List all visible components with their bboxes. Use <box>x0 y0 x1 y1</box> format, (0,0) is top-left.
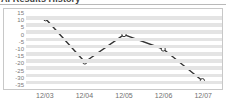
plot-area <box>26 9 222 89</box>
grid-band <box>26 30 222 34</box>
title-divider <box>0 4 226 5</box>
grid-band <box>26 52 222 56</box>
chart-widget: AI Results History 151050-5-10-15-20-25-… <box>0 0 226 103</box>
y-axis-tick-label: 10 <box>17 17 24 23</box>
x-axis: 12/0312/0412/0512/0612/07 <box>25 91 223 103</box>
x-axis-tick-label: 12/07 <box>194 91 212 101</box>
x-axis-tick-label: 12/03 <box>36 91 54 101</box>
x-axis-tick-label: 12/05 <box>115 91 133 101</box>
grid-band <box>26 66 222 70</box>
y-axis-tick-label: -35 <box>15 82 24 88</box>
grid-band <box>26 81 222 85</box>
y-axis-tick-label: -20 <box>15 60 24 66</box>
y-axis-tick-label: -10 <box>15 46 24 52</box>
grid-band <box>26 59 222 63</box>
y-axis-tick-label: -30 <box>15 75 24 81</box>
y-axis-tick-label: 15 <box>17 10 24 16</box>
y-axis-tick-label: -5 <box>19 39 24 45</box>
x-axis-tick-label: 12/04 <box>76 91 94 101</box>
grid-band <box>26 74 222 78</box>
y-axis-tick-label: -25 <box>15 68 24 74</box>
y-axis-tick-label: 0 <box>21 32 24 38</box>
grid-band <box>26 23 222 27</box>
x-axis-tick-label: 12/06 <box>155 91 173 101</box>
y-axis-tick-label: 5 <box>21 24 24 30</box>
grid-band <box>26 38 222 42</box>
y-axis: 151050-5-10-15-20-25-30-35 <box>4 9 26 89</box>
y-axis-tick-label: -15 <box>15 53 24 59</box>
grid-band <box>26 16 222 20</box>
series-line <box>46 19 203 81</box>
grid-band <box>26 45 222 49</box>
chart-plot-frame: 151050-5-10-15-20-25-30-35 <box>3 8 223 90</box>
